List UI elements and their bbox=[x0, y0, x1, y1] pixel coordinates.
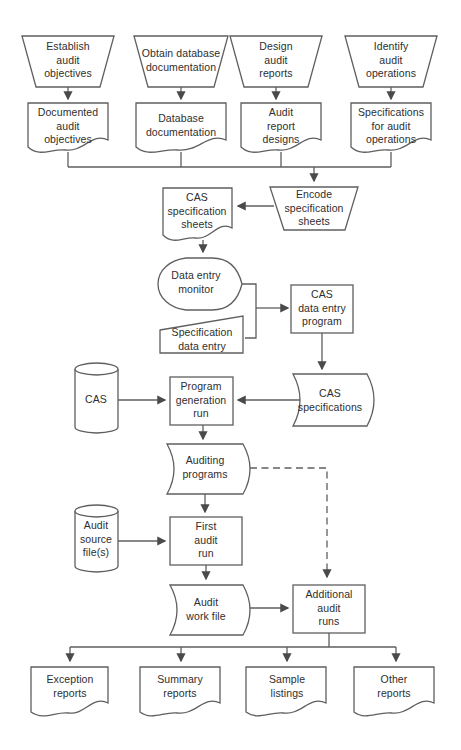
label-establish-audit-objectives: Establish audit objectives bbox=[18, 40, 118, 81]
label-cas-data-entry-program: CAS data entry program bbox=[272, 288, 372, 329]
label-cas-specification-sheets: CAS specification sheets bbox=[147, 191, 247, 232]
label-cas-file: CAS bbox=[46, 393, 146, 407]
label-sample-listings: Sample listings bbox=[237, 673, 337, 700]
label-first-audit-run: First audit run bbox=[156, 520, 256, 561]
label-database-documentation: Database documentation bbox=[131, 112, 231, 139]
label-audit-source-files: Audit source file(s) bbox=[46, 519, 146, 560]
label-additional-audit-runs: Additional audit runs bbox=[279, 588, 379, 629]
label-summary-reports: Summary reports bbox=[130, 673, 230, 700]
label-exception-reports: Exception reports bbox=[20, 673, 120, 700]
label-specifications-for-audit-operations: Specifications for audit operations bbox=[341, 106, 441, 147]
label-data-entry-monitor: Data entry monitor bbox=[146, 269, 246, 296]
label-cas-specifications: CAS specifications bbox=[280, 387, 380, 414]
label-auditing-programs: Auditing programs bbox=[155, 454, 255, 481]
label-program-generation-run: Program generation run bbox=[151, 380, 251, 421]
label-audit-report-designs: Audit report designs bbox=[231, 106, 331, 147]
label-specification-data-entry: Specification data entry bbox=[152, 326, 252, 353]
shape-audit-source-files-top bbox=[75, 505, 118, 517]
label-design-audit-reports: Design audit reports bbox=[226, 40, 326, 81]
label-documented-audit-objectives: Documented audit objectives bbox=[18, 106, 118, 147]
label-obtain-database-documentation: Obtain database documentation bbox=[131, 47, 231, 74]
audit-flowchart: Establish audit objectives Obtain databa… bbox=[0, 0, 461, 750]
label-other-reports: Other reports bbox=[344, 673, 444, 700]
edge-documents-bus bbox=[68, 152, 391, 167]
shape-cas-file-top bbox=[75, 363, 118, 375]
label-identify-audit-operations: Identify audit operations bbox=[341, 40, 441, 81]
edge-auditing-programs-to-additional-runs-dashed bbox=[250, 468, 327, 577]
label-encode-specification-sheets: Encode specification sheets bbox=[264, 188, 364, 229]
label-audit-work-file: Audit work file bbox=[156, 596, 256, 623]
